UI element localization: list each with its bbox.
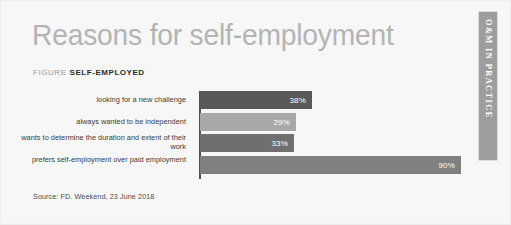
bar-category-label: wants to determine the duration and exte… xyxy=(14,133,186,151)
chart-row: wants to determine the duration and exte… xyxy=(6,134,505,152)
bar-value-label: 33% xyxy=(271,139,294,148)
figure-caption-name: SELF-EMPLOYED xyxy=(70,68,145,77)
bar-segment: 38% xyxy=(200,91,312,109)
figure-canvas: Reasons for self-employment FIGURESELF-E… xyxy=(6,4,505,221)
bar-value-label: 29% xyxy=(273,118,296,127)
bar-segment: 29% xyxy=(200,113,296,131)
page-title: Reasons for self-employment xyxy=(32,18,394,52)
bar-category-label: prefers self-employment over paid employ… xyxy=(14,155,186,164)
source-note: Source: FD. Weekend, 23 June 2018 xyxy=(33,192,154,201)
figure-caption: FIGURESELF-EMPLOYED xyxy=(33,68,145,77)
section-tab-label: O&M IN PRACTICE xyxy=(484,19,493,119)
section-tab: O&M IN PRACTICE xyxy=(479,12,497,160)
bar-chart: looking for a new challenge 38% always w… xyxy=(6,88,505,184)
bar-value-label: 38% xyxy=(289,96,312,105)
bar-segment: 33% xyxy=(200,134,294,152)
chart-row: prefers self-employment over paid employ… xyxy=(6,156,505,174)
figure-caption-prefix: FIGURE xyxy=(33,68,67,77)
bar-category-label: always wanted to be independent xyxy=(14,117,186,126)
chart-row: always wanted to be independent 29% xyxy=(6,113,505,131)
chart-row: looking for a new challenge 38% xyxy=(6,91,505,109)
bar-segment: 90% xyxy=(200,156,461,174)
figure-page: Reasons for self-employment FIGURESELF-E… xyxy=(0,0,511,225)
bar-value-label: 90% xyxy=(438,161,461,170)
bar-category-label: looking for a new challenge xyxy=(14,95,186,104)
